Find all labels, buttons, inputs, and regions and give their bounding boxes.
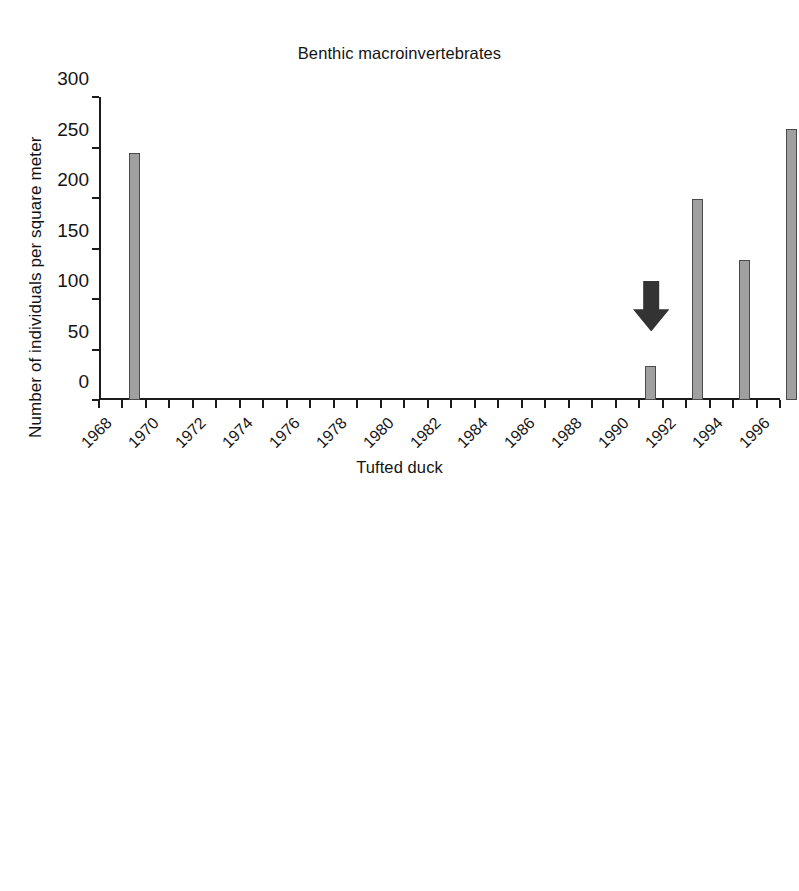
x-axis-tick [121,400,123,408]
bar [129,153,140,400]
x-axis-tick-label: 1986 [492,414,539,461]
y-axis-tick-label: 100 [57,271,89,290]
chart-title-tufted-duck: Tufted duck [0,458,799,477]
x-axis-tick [709,400,711,408]
x-axis-tick-label: 1992 [633,414,680,461]
x-axis-tick [168,400,170,408]
x-axis-tick [685,400,687,408]
x-axis-tick-label: 1996 [727,414,774,461]
y-axis-tick-label: 300 [57,69,89,88]
x-axis-tick [497,400,499,408]
y-axis-tick [92,349,99,351]
x-axis-tick-label: 1994 [680,414,727,461]
x-axis-tick [450,400,452,408]
x-axis-tick [568,400,570,408]
x-axis-tick [403,400,405,408]
y-axis-tick [92,96,99,98]
x-axis-tick-label: 1972 [163,414,210,461]
x-axis-line [99,398,780,400]
chart-panel-tufted-duck: Tufted duck Number of individuals 010020… [0,455,799,891]
x-axis-tick [638,400,640,408]
x-axis-tick-label: 1978 [304,414,351,461]
x-axis-tick [474,400,476,408]
x-axis-tick-label: 1974 [210,414,257,461]
x-axis-tick [521,400,523,408]
y-axis-tick [92,298,99,300]
y-axis-tick-label: 200 [57,170,89,189]
chart-title-benthic: Benthic macroinvertebrates [0,44,799,63]
x-axis-tick [356,400,358,408]
x-axis-tick-label: 1982 [398,414,445,461]
x-axis-tick [286,400,288,408]
x-axis-tick [192,400,194,408]
x-axis-tick [756,400,758,408]
bar [645,366,656,400]
x-axis-tick [262,400,264,408]
y-axis-tick [92,197,99,199]
y-axis-tick-label: 250 [57,120,89,139]
x-axis-tick-label: 1990 [586,414,633,461]
x-axis-tick [380,400,382,408]
x-axis-tick [215,400,217,408]
x-axis-tick [732,400,734,408]
y-axis-tick-label: 150 [57,221,89,240]
x-axis-tick [309,400,311,408]
y-axis-tick-label: 0 [78,372,89,391]
x-axis-tick [779,400,781,408]
x-axis-tick [544,400,546,408]
x-axis-tick [239,400,241,408]
bar [692,199,703,400]
y-axis-title-benthic: Number of individuals per square meter [26,137,46,438]
chart-panel-benthic: Benthic macroinvertebrates Number of ind… [0,30,799,460]
x-axis-tick [427,400,429,408]
x-axis-tick-label: 1988 [539,414,586,461]
y-axis-tick-label: 50 [68,322,89,341]
x-axis-tick [333,400,335,408]
x-axis-tick [98,400,100,408]
x-axis-tick-label: 1976 [257,414,304,461]
plot-area-benthic: 0501001502002503001968197019721974197619… [99,97,780,400]
x-axis-tick [615,400,617,408]
bar [786,129,797,400]
x-axis-tick [662,400,664,408]
x-axis-tick [145,400,147,408]
x-axis-tick-label: 1968 [69,414,116,461]
x-axis-tick-label: 1980 [351,414,398,461]
y-axis-tick [92,248,99,250]
x-axis-tick-label: 1984 [445,414,492,461]
figure: Benthic macroinvertebrates Number of ind… [0,0,799,891]
y-axis-line [99,97,101,400]
y-axis-tick [92,147,99,149]
down-arrow-icon [633,281,669,332]
bar [739,260,750,400]
x-axis-tick [591,400,593,408]
x-axis-tick-label: 1970 [116,414,163,461]
